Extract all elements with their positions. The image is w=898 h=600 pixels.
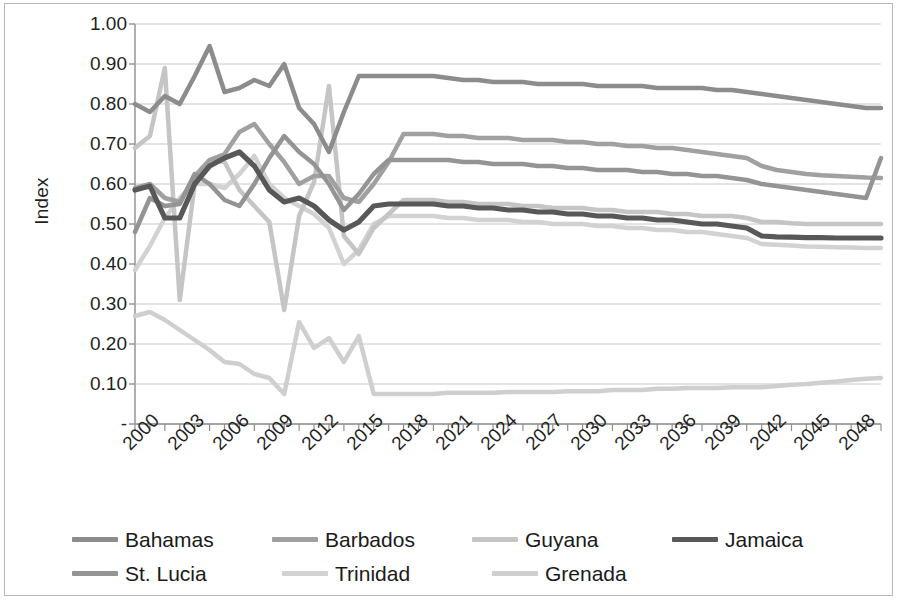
chart-svg — [0, 0, 898, 600]
legend-item-bahamas[interactable]: Bahamas — [72, 522, 272, 556]
legend-row: BahamasBarbadosGuyanaJamaica — [72, 522, 872, 556]
chart-legend: BahamasBarbadosGuyanaJamaicaSt. LuciaTri… — [72, 522, 872, 590]
y-tick-label: 0.30 — [57, 294, 127, 313]
y-axis-title: Index — [31, 141, 53, 261]
y-tick-label: 0.20 — [57, 334, 127, 353]
legend-label: Trinidad — [335, 563, 410, 584]
y-tick-label: 0.90 — [57, 54, 127, 73]
y-tick-label: 0.70 — [57, 134, 127, 153]
y-tick-label: 1.00 — [57, 14, 127, 33]
legend-label: Jamaica — [725, 529, 803, 550]
legend-item-jamaica[interactable]: Jamaica — [672, 522, 872, 556]
legend-item-trinidad[interactable]: Trinidad — [282, 556, 492, 590]
legend-swatch-icon — [72, 571, 118, 576]
legend-swatch-icon — [672, 537, 718, 542]
legend-item-barbados[interactable]: Barbados — [272, 522, 472, 556]
legend-swatch-icon — [72, 537, 118, 542]
y-tick-label: 0.60 — [57, 174, 127, 193]
plot-area — [0, 0, 898, 600]
legend-item-grenada[interactable]: Grenada — [492, 556, 702, 590]
legend-label: Bahamas — [125, 529, 214, 550]
y-tick-label: 0.10 — [57, 374, 127, 393]
legend-label: Barbados — [325, 529, 415, 550]
legend-label: Guyana — [525, 529, 599, 550]
legend-swatch-icon — [492, 571, 538, 576]
series-line-trinidad — [135, 156, 881, 270]
series-line-grenada — [135, 312, 881, 394]
legend-swatch-icon — [282, 571, 328, 576]
legend-label: Grenada — [545, 563, 627, 584]
legend-item-guyana[interactable]: Guyana — [472, 522, 672, 556]
y-tick-label: 0.40 — [57, 254, 127, 273]
legend-label: St. Lucia — [125, 563, 207, 584]
legend-row: St. LuciaTrinidadGrenada — [72, 556, 872, 590]
y-tick-label: 0.50 — [57, 214, 127, 233]
legend-swatch-icon — [472, 537, 518, 542]
chart-root: Index 1.000.900.800.700.600.500.400.300.… — [0, 0, 898, 600]
y-tick-label: 0.80 — [57, 94, 127, 113]
legend-swatch-icon — [272, 537, 318, 542]
legend-item-st-lucia[interactable]: St. Lucia — [72, 556, 282, 590]
y-tick-label: - — [57, 414, 127, 433]
